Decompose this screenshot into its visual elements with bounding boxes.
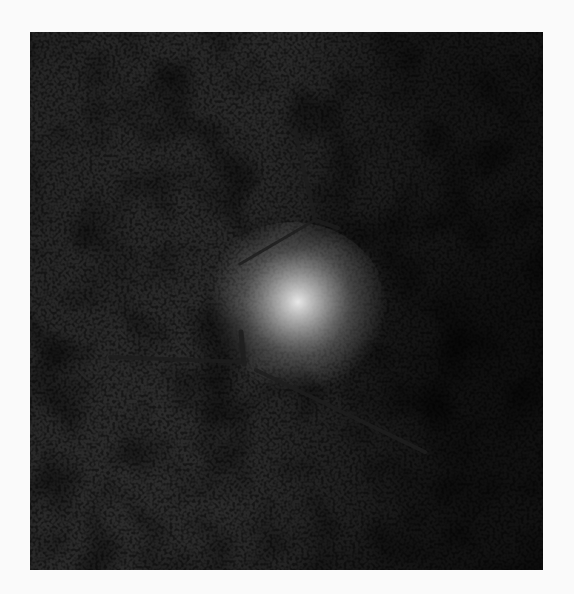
page-background bbox=[0, 0, 574, 594]
astronomical-photo bbox=[30, 32, 543, 570]
star-field-image bbox=[30, 32, 543, 570]
